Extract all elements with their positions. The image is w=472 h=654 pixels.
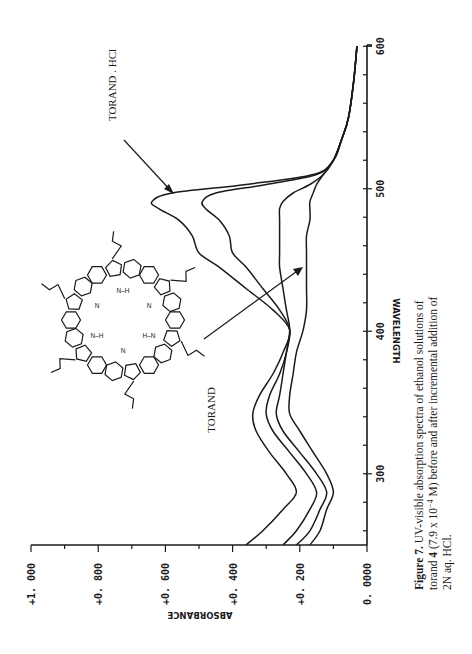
spectra-curves: [151, 46, 357, 545]
molecule-atom-label: N–H: [116, 287, 129, 294]
spectrum-curve-2: [202, 46, 357, 545]
molecule-atom-label: N: [147, 302, 152, 309]
absorbance-tick-label: 0. 0000: [362, 563, 373, 605]
wavelength-tick-labels: 300400500600: [375, 37, 386, 483]
absorbance-ticks: [31, 545, 367, 552]
spectrum-curve-3: [276, 46, 357, 545]
molecule-atom-label: H–N: [142, 332, 155, 339]
absorbance-tick-label: +1. 000: [26, 563, 37, 605]
absorbance-axis-title: ABSORBANCE: [167, 610, 232, 620]
absorbance-tick-label: +0. 600: [160, 563, 171, 605]
caption-line-1: Figure 7. UV-visible absorption spectra …: [413, 300, 426, 590]
absorbance-tick-label: +0. 800: [93, 563, 104, 605]
torand-molecule-labels: H–NNN–HNN–HN: [90, 287, 155, 354]
molecule-atom-label: N–H: [90, 332, 103, 339]
torand-molecule-structure: [42, 231, 205, 408]
arrow-to-torand-hcl-curve: [124, 140, 174, 194]
wavelength-tick-label: 500: [375, 180, 386, 198]
caption-line-3: 2N aq. HCl.: [441, 534, 454, 590]
absorbance-tick-labels: 0. 0000+0. 200+0. 400+0. 600+0. 800+1. 0…: [26, 563, 373, 605]
figure-caption: Figure 7. UV-visible absorption spectra …: [413, 296, 454, 590]
molecule-atom-label: N: [95, 302, 100, 309]
uv-vis-spectra-figure: 0. 0000+0. 200+0. 400+0. 600+0. 800+1. 0…: [0, 0, 472, 654]
wavelength-tick-label: 600: [375, 37, 386, 55]
annotation-torand: TORAND: [205, 387, 217, 433]
wavelength-tick-label: 400: [375, 322, 386, 340]
absorbance-tick-label: +0. 400: [228, 563, 239, 605]
caption-line-2: torand 4 (7.9 x 10−4 M) before and after…: [426, 296, 440, 590]
wavelength-axis-title: WAVELENGTH: [391, 298, 401, 363]
arrow-to-torand-curve: [204, 267, 303, 339]
plot-axes: [31, 45, 372, 552]
absorbance-tick-label: +0. 200: [295, 563, 306, 605]
molecule-atom-label: N: [121, 347, 126, 354]
wavelength-tick-label: 300: [375, 465, 386, 483]
spectrum-curve-4: [289, 46, 357, 545]
annotation-torand-hcl: TORAND . HCl: [106, 49, 118, 121]
spectrum-curve-1: [151, 46, 357, 545]
